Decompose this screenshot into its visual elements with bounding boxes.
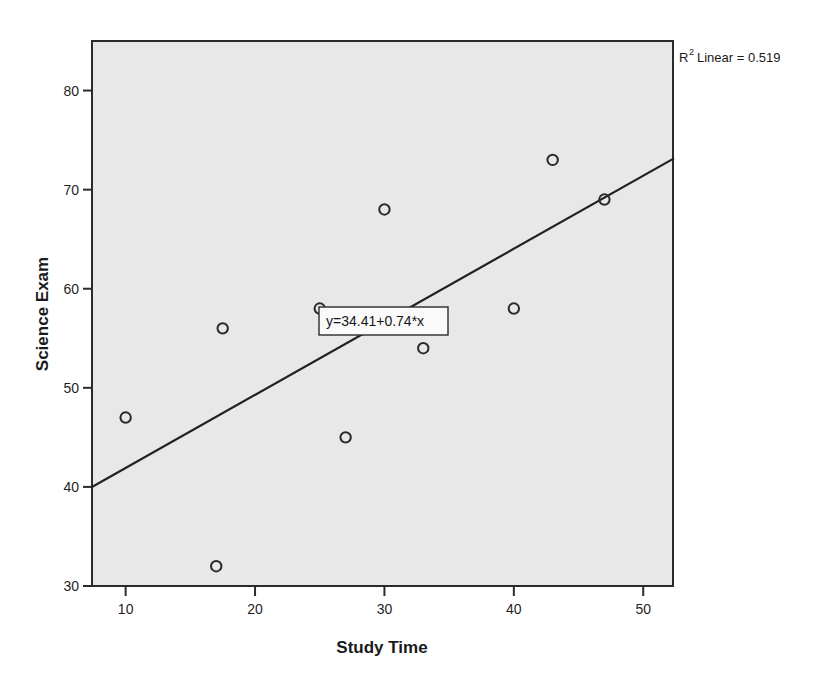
r-squared-text: Linear = 0.519 <box>697 50 780 65</box>
y-tick-label: 50 <box>63 380 79 396</box>
x-tick-label: 40 <box>506 601 522 617</box>
r-squared-superscript: 2 <box>689 47 694 57</box>
x-tick-label: 10 <box>118 601 134 617</box>
chart-figure: 304050607080 1020304050 Science Exam Stu… <box>0 0 817 682</box>
y-tick-label: 40 <box>63 479 79 495</box>
y-tick-label: 80 <box>63 83 79 99</box>
x-axis-title: Study Time <box>336 638 427 657</box>
y-tick-label: 60 <box>63 281 79 297</box>
equation-label-text: y=34.41+0.74*x <box>326 313 424 329</box>
y-tick-label: 30 <box>63 578 79 594</box>
r-squared-prefix: R <box>679 50 688 65</box>
x-tick-label: 20 <box>247 601 263 617</box>
x-tick-label: 30 <box>377 601 393 617</box>
y-axis-title: Science Exam <box>33 257 52 371</box>
x-tick-label: 50 <box>635 601 651 617</box>
y-tick-label: 70 <box>63 182 79 198</box>
scatter-plot: 304050607080 1020304050 Science Exam Stu… <box>0 0 817 682</box>
equation-annotation: y=34.41+0.74*x <box>319 307 448 335</box>
